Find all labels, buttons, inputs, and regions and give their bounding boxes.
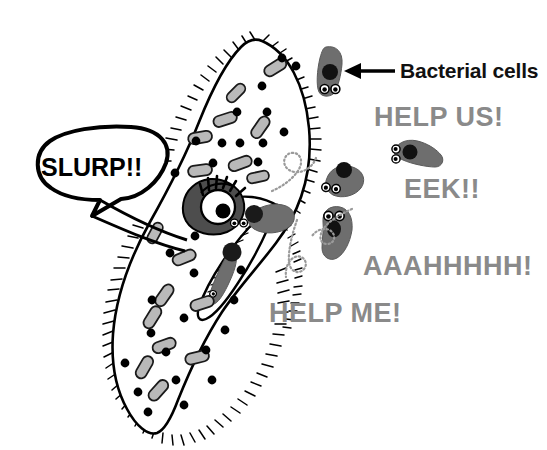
bacterium-screaming bbox=[322, 207, 352, 260]
slurp-speech-bubble bbox=[38, 127, 187, 251]
slurp-speech-text: SLURP!! bbox=[41, 155, 142, 180]
bacteria-speech-eek: EEK!! bbox=[404, 176, 480, 203]
bacterium-help-us bbox=[392, 140, 443, 167]
bacterium-eek bbox=[321, 162, 363, 197]
bacterial-cells-arrow bbox=[344, 63, 395, 79]
bacterial-cells-label: Bacterial cells bbox=[400, 60, 538, 81]
bacterium-labeled bbox=[317, 47, 342, 96]
bacteria-speech-help-me: HELP ME! bbox=[269, 300, 402, 327]
paramecium-body bbox=[103, 32, 321, 445]
figure-canvas: Bacterial cells SLURP!! HELP US! EEK!! A… bbox=[0, 0, 547, 450]
bacteria-speech-help-us: HELP US! bbox=[374, 104, 504, 131]
bacteria-speech-aaah: AAAHHHHH! bbox=[363, 253, 532, 280]
